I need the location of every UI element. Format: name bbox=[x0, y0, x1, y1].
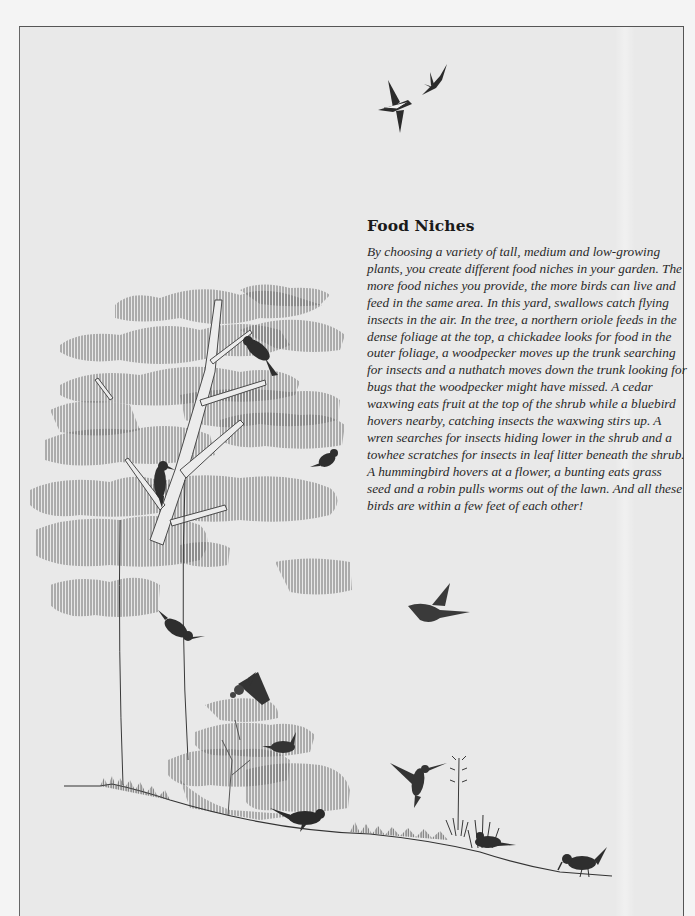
article-title: Food Niches bbox=[367, 216, 475, 235]
article-body: By choosing a variety of tall, medium an… bbox=[367, 244, 687, 515]
nuthatch-icon bbox=[158, 610, 205, 641]
bunting-icon bbox=[475, 832, 516, 848]
hummingbird-icon bbox=[390, 763, 447, 808]
chickadee-icon bbox=[310, 449, 338, 470]
bluebird-icon bbox=[408, 583, 470, 622]
shrub bbox=[168, 698, 350, 820]
flower-stalk bbox=[446, 756, 468, 837]
swallow-icon bbox=[422, 64, 447, 95]
swallow-icon bbox=[378, 80, 412, 133]
